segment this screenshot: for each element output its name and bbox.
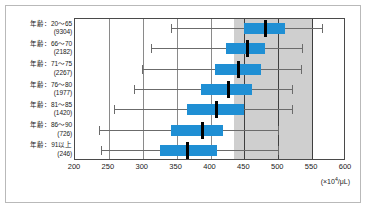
median-marker — [237, 61, 240, 78]
x-tick-label: 550 — [305, 162, 318, 171]
whisker-cap-min — [134, 85, 135, 94]
x-tick-label: 200 — [68, 162, 81, 171]
median-marker — [215, 101, 218, 118]
category-label-text: 年齢：91以上 — [10, 141, 72, 149]
whisker-cap-max — [292, 85, 293, 94]
median-marker — [227, 81, 230, 98]
box-plot-row — [75, 141, 344, 160]
median-marker — [246, 40, 249, 57]
category-label-count: (1977) — [10, 89, 72, 97]
x-tick-label: 350 — [169, 162, 182, 171]
whisker-cap-min — [114, 105, 115, 114]
whisker-cap-max — [278, 126, 279, 135]
value-axis-ticks: 200250300350400450500550600 — [74, 162, 345, 174]
whisker-cap-max — [301, 65, 302, 74]
category-label-1: 年齢：20～65(9304) — [10, 20, 72, 37]
chart-figure: 年齢：20～65(9304)年齢：66～70(2182)年齢：71～75(226… — [0, 0, 368, 216]
x-tick-label: 500 — [271, 162, 284, 171]
median-marker — [186, 142, 189, 159]
median-marker — [264, 20, 267, 37]
box-plot-row — [75, 80, 344, 100]
box-plot-row — [75, 100, 344, 120]
category-label-count: (726) — [10, 130, 72, 138]
box-plot-row — [75, 19, 344, 39]
box-plot-row — [75, 60, 344, 80]
whisker-cap-min — [142, 65, 143, 74]
whisker-cap-min — [101, 146, 102, 155]
category-label-text: 年齢：76～80 — [10, 81, 72, 89]
category-label-3: 年齢：71～75(2267) — [10, 60, 72, 77]
whisker-cap-max — [292, 105, 293, 114]
x-tick-label: 250 — [102, 162, 115, 171]
box-plot-row — [75, 39, 344, 59]
category-label-count: (2267) — [10, 69, 72, 77]
box-plot-row — [75, 121, 344, 141]
whisker-cap-min — [171, 24, 172, 33]
whisker-cap-min — [151, 44, 152, 53]
category-label-2: 年齢：66～70(2182) — [10, 40, 72, 57]
axis-unit-label: (×104/μL) — [240, 176, 350, 185]
whisker-cap-max — [278, 146, 279, 155]
whisker-cap-max — [302, 44, 303, 53]
category-label-text: 年齢：86～90 — [10, 121, 72, 129]
category-label-count: (246) — [10, 150, 72, 158]
category-label-5: 年齢：81～85(1420) — [10, 101, 72, 118]
x-tick-label: 600 — [339, 162, 352, 171]
category-label-text: 年齢：71～75 — [10, 60, 72, 68]
whisker-cap-max — [322, 24, 323, 33]
category-label-text: 年齢：20～65 — [10, 20, 72, 28]
category-label-count: (2182) — [10, 48, 72, 56]
category-label-7: 年齢：91以上(246) — [10, 141, 72, 158]
category-label-count: (9304) — [10, 28, 72, 36]
unit-exponent: 4 — [335, 176, 338, 182]
category-label-4: 年齢：76～80(1977) — [10, 81, 72, 98]
x-tick-label: 300 — [135, 162, 148, 171]
box-iqr — [171, 125, 224, 136]
plot-area — [74, 18, 345, 160]
x-tick-label: 400 — [203, 162, 216, 171]
category-label-6: 年齢：86～90(726) — [10, 121, 72, 138]
category-axis-labels: 年齢：20～65(9304)年齢：66～70(2182)年齢：71～75(226… — [10, 18, 72, 160]
category-label-count: (1420) — [10, 109, 72, 117]
category-label-text: 年齢：81～85 — [10, 101, 72, 109]
whisker-cap-min — [99, 126, 100, 135]
x-tick-label: 450 — [237, 162, 250, 171]
median-marker — [201, 122, 204, 139]
category-label-text: 年齢：66～70 — [10, 40, 72, 48]
